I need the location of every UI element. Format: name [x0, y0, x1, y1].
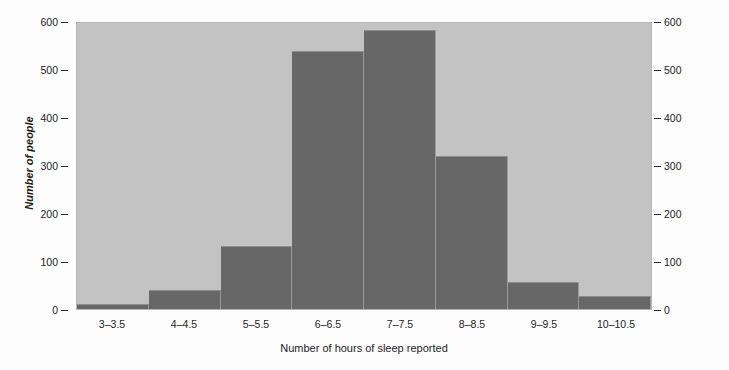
histogram-bar[interactable] — [579, 296, 651, 309]
y-tick-left-label-4: 400 — [40, 113, 58, 124]
y-tick-left-label-6: 600 — [40, 17, 58, 28]
y-tick-right-label-3: 300 — [664, 161, 682, 172]
x-tick-label: 5–5.5 — [220, 318, 292, 330]
y-tick-mark-icon — [61, 118, 68, 119]
y-tick-mark-icon — [61, 22, 68, 23]
y-tick-mark-icon — [654, 118, 661, 119]
histogram-bar[interactable] — [364, 30, 436, 309]
bar-slot — [508, 23, 580, 309]
y-tick-mark-icon — [654, 214, 661, 215]
x-tick-label: 6–6.5 — [292, 318, 364, 330]
bar-slot — [77, 23, 149, 309]
plot-area — [76, 22, 652, 310]
y-tick-left-label-3: 300 — [40, 161, 58, 172]
x-axis-title: Number of hours of sleep reported — [76, 342, 652, 354]
y-axis-right: 0 100 200 300 400 500 600 — [654, 22, 724, 310]
y-tick-mark-icon — [654, 262, 661, 263]
x-tick-label: 3–3.5 — [76, 318, 148, 330]
histogram-figure: 0 100 200 300 400 500 600 — [0, 0, 729, 370]
y-tick-right-label-2: 200 — [664, 209, 682, 220]
bar-slot — [149, 23, 221, 309]
bar-slot — [364, 23, 436, 309]
y-tick-mark-icon — [61, 310, 68, 311]
y-tick-right-label-0: 0 — [664, 305, 670, 316]
bar-slot — [292, 23, 364, 309]
y-axis-left: 0 100 200 300 400 500 600 — [8, 22, 68, 310]
y-tick-right-label-4: 400 — [664, 113, 682, 124]
y-tick-left-label-5: 500 — [40, 65, 58, 76]
y-tick-mark-icon — [61, 70, 68, 71]
y-tick-mark-icon — [654, 22, 661, 23]
y-tick-mark-icon — [61, 214, 68, 215]
bar-slot — [579, 23, 651, 309]
bar-slot — [221, 23, 293, 309]
histogram-bar[interactable] — [77, 304, 149, 309]
histogram-bar[interactable] — [436, 156, 508, 309]
x-tick-label: 10–10.5 — [580, 318, 652, 330]
bar-slot — [436, 23, 508, 309]
histogram-bar[interactable] — [221, 246, 293, 309]
y-tick-left-label-1: 100 — [40, 257, 58, 268]
y-tick-mark-icon — [61, 262, 68, 263]
x-axis-tick-labels: 3–3.5 4–4.5 5–5.5 6–6.5 7–7.5 8–8.5 9–9.… — [76, 318, 652, 330]
y-tick-right-label-5: 500 — [664, 65, 682, 76]
x-tick-label: 9–9.5 — [508, 318, 580, 330]
histogram-bar[interactable] — [149, 290, 221, 309]
y-axis-title: Number of people — [23, 93, 35, 233]
x-tick-label: 7–7.5 — [364, 318, 436, 330]
y-tick-left-label-2: 200 — [40, 209, 58, 220]
y-tick-right-label-6: 600 — [664, 17, 682, 28]
y-tick-mark-icon — [61, 166, 68, 167]
y-tick-right-label-1: 100 — [664, 257, 682, 268]
y-tick-mark-icon — [654, 70, 661, 71]
y-tick-left-label-0: 0 — [52, 305, 58, 316]
x-tick-label: 4–4.5 — [148, 318, 220, 330]
histogram-bar[interactable] — [508, 282, 580, 309]
bar-series — [77, 23, 651, 309]
x-tick-label: 8–8.5 — [436, 318, 508, 330]
histogram-bar[interactable] — [292, 51, 364, 309]
y-tick-mark-icon — [654, 310, 661, 311]
y-tick-mark-icon — [654, 166, 661, 167]
